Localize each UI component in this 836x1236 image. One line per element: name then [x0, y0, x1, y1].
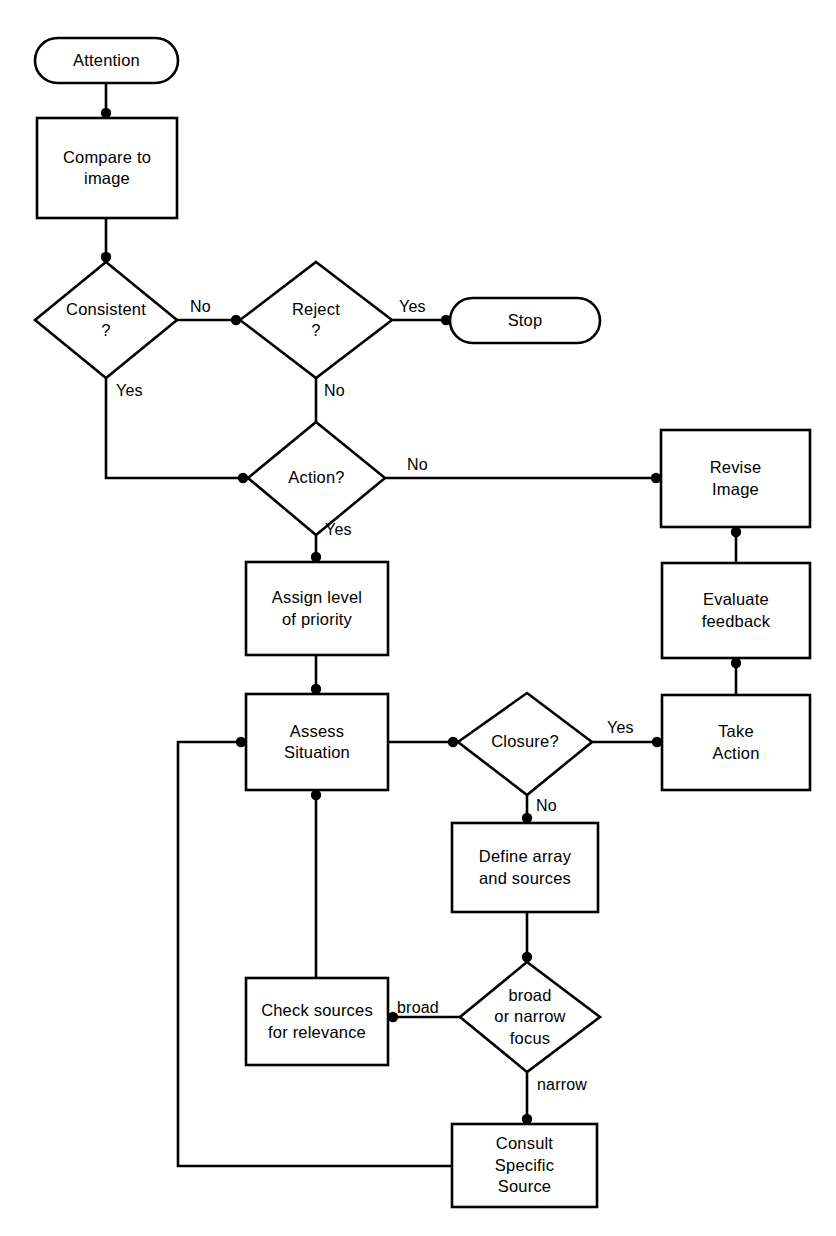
node-check-sources-for-relevance[interactable]: [246, 978, 388, 1065]
edge-endpoint-dot: [651, 473, 661, 483]
edge-consistent-no-to-reject: [177, 315, 241, 325]
edge-evaluate-to-revise: [731, 527, 741, 563]
node-compare-to-image[interactable]: [37, 118, 177, 218]
node-assess-situation[interactable]: [246, 694, 388, 790]
node-define-array-and-sources[interactable]: [452, 823, 598, 912]
node-revise-image[interactable]: [661, 430, 810, 527]
node-take-action[interactable]: [662, 695, 810, 790]
node-action-decision[interactable]: [248, 422, 385, 535]
edge-endpoint-dot: [522, 813, 532, 823]
edge-endpoint-dot: [388, 1012, 398, 1022]
edge-check-to-assess: [311, 790, 321, 978]
edge-closure-yes-to-take-action: [592, 737, 662, 747]
edge-reject-yes-to-stop: [392, 315, 451, 325]
node-reject-decision[interactable]: [240, 262, 392, 378]
edge-focus-broad-to-check: [388, 1012, 460, 1022]
node-evaluate-feedback[interactable]: [662, 563, 810, 658]
node-broad-or-narrow-focus-decision[interactable]: [460, 962, 600, 1072]
edge-assess-to-closure: [388, 737, 458, 747]
flowchart-graphics: Reject? --> Stop --> down & right to Act…: [0, 0, 836, 1236]
edge-endpoint-dot: [522, 1114, 532, 1124]
node-assign-level-of-priority[interactable]: [246, 562, 388, 655]
edge-endpoint-dot: [311, 790, 321, 800]
edge-endpoint-dot: [236, 737, 246, 747]
edge-endpoint-dot: [731, 527, 741, 537]
edge-focus-narrow-to-consult: [522, 1072, 532, 1124]
edge-closure-no-to-define: [522, 795, 532, 823]
edge-action-yes-to-assign: [311, 535, 321, 562]
edge-endpoint-dot: [652, 737, 662, 747]
node-attention[interactable]: [35, 38, 178, 83]
edge-consistent-yes-to-action: [106, 378, 248, 483]
edge-attention-to-compare: [101, 82, 111, 118]
edge-endpoint-dot: [311, 684, 321, 694]
edge-endpoint-dot: [311, 552, 321, 562]
node-stop[interactable]: [450, 298, 600, 343]
edge-action-no-to-revise: [385, 473, 661, 483]
edge-take-action-to-evaluate: [731, 658, 741, 695]
flowchart-canvas: Reject? --> Stop --> down & right to Act…: [0, 0, 836, 1236]
node-consistent-decision[interactable]: [35, 262, 177, 378]
node-consult-specific-source[interactable]: [452, 1124, 597, 1207]
edge-compare-to-consistent: [101, 218, 111, 262]
edge-endpoint-dot: [101, 108, 111, 118]
node-closure-decision[interactable]: [458, 693, 592, 795]
edge-define-to-focus: [522, 912, 532, 962]
edge-endpoint-dot: [731, 658, 741, 668]
edge-assign-to-assess: [311, 655, 321, 694]
